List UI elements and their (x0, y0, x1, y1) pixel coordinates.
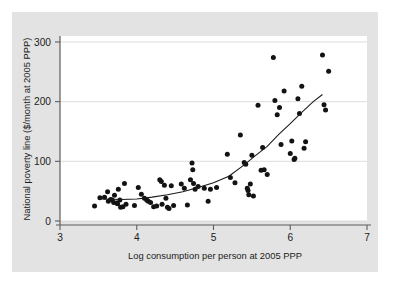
x-tick-label: 4 (134, 232, 140, 243)
data-point (272, 98, 277, 103)
data-point (162, 183, 167, 188)
data-point (295, 96, 300, 101)
data-point (262, 167, 267, 172)
data-point (214, 185, 219, 190)
data-point (322, 102, 327, 107)
x-axis-ticks: 34567 (57, 225, 370, 243)
data-point (171, 203, 176, 208)
y-axis-ticks: 0100200300 (34, 37, 60, 227)
data-point (302, 146, 307, 151)
data-point (136, 185, 141, 190)
x-tick-label: 3 (57, 232, 63, 243)
x-tick-label: 6 (287, 232, 293, 243)
y-tick-label: 0 (45, 216, 51, 227)
data-point (206, 199, 211, 204)
data-point (256, 103, 261, 108)
data-point (139, 192, 144, 197)
x-tick-label: 5 (211, 232, 217, 243)
data-point (299, 84, 304, 89)
data-point (292, 156, 297, 161)
data-point (182, 186, 187, 191)
x-axis-title: Log consumption per person at 2005 PPP (128, 250, 302, 261)
x-tick-label: 7 (364, 232, 370, 243)
data-point (154, 204, 159, 209)
data-point (275, 112, 280, 117)
data-point (238, 133, 243, 138)
data-point (185, 202, 190, 207)
data-point (303, 139, 308, 144)
data-point (169, 183, 174, 188)
data-point (97, 195, 102, 200)
data-point (320, 53, 325, 58)
data-point (124, 202, 129, 207)
data-point (132, 203, 137, 208)
data-point (246, 188, 251, 193)
y-tick-label: 200 (34, 96, 51, 107)
y-axis-title: National poverty line ($/month at 2005 P… (21, 38, 32, 221)
data-point (105, 189, 110, 194)
chart-figure: 0100200300 34567 Log consumption per per… (0, 0, 394, 283)
data-point (277, 105, 282, 110)
data-point (163, 196, 168, 201)
y-tick-label: 100 (34, 156, 51, 167)
data-point (265, 172, 270, 177)
data-point (282, 88, 287, 93)
data-point (117, 198, 122, 203)
data-point (92, 204, 97, 209)
data-point (122, 181, 127, 186)
data-point (160, 202, 165, 207)
data-point (191, 181, 196, 186)
data-point (271, 55, 276, 60)
data-point (112, 193, 117, 198)
data-point (190, 167, 195, 172)
data-point (166, 206, 171, 211)
y-tick-label: 300 (34, 37, 51, 48)
data-point (246, 192, 251, 197)
data-point (288, 151, 293, 156)
data-point (179, 182, 184, 187)
data-point (289, 139, 294, 144)
data-point (148, 200, 153, 205)
data-point (323, 108, 328, 113)
scatter-plot: 0100200300 34567 Log consumption per per… (0, 0, 394, 283)
data-point (225, 152, 230, 157)
data-point (116, 187, 121, 192)
data-point (208, 187, 213, 192)
data-point (248, 182, 253, 187)
data-point (232, 180, 237, 185)
data-point (190, 161, 195, 166)
data-point (279, 142, 284, 147)
data-point (326, 69, 331, 74)
data-point (251, 193, 256, 198)
